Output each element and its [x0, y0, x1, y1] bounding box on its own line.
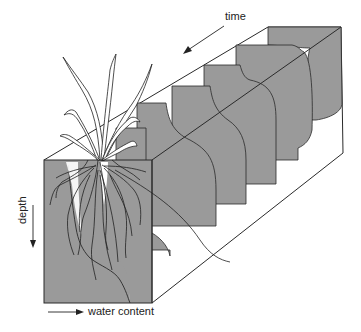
front-profile-panel	[44, 160, 152, 303]
soil-water-diagram	[0, 0, 361, 332]
depth-arrow	[30, 205, 36, 248]
time-axis-label: time	[225, 10, 246, 22]
time-arrow	[183, 26, 224, 54]
water-content-axis-label: water content	[88, 305, 154, 317]
depth-axis-label: depth	[16, 196, 28, 224]
water-content-arrow	[48, 309, 84, 315]
